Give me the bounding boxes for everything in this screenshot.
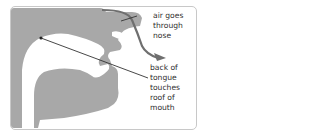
tongue-label: back of tongue touches roof of mouth (150, 63, 180, 113)
air-label-line-3: nose (153, 31, 183, 41)
air-arrow-head (154, 53, 166, 61)
tongue-label-line-1: back of (150, 63, 180, 73)
tongue-label-line-2: tongue (150, 73, 180, 83)
air-label-line-2: through (153, 21, 183, 31)
tongue-label-line-5: mouth (150, 103, 180, 113)
air-label-line-1: air goes (153, 11, 183, 21)
tongue-label-line-3: touches (150, 83, 180, 93)
air-label: air goes through nose (153, 11, 183, 41)
tongue-label-line-4: roof of (150, 93, 180, 103)
